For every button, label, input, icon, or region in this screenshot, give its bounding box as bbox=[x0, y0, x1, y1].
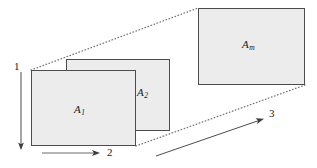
plate-a1-label-base: A bbox=[74, 103, 81, 115]
axis-1-arrow bbox=[18, 72, 24, 150]
axis-3-arrow bbox=[156, 118, 264, 156]
plate-a2-label-subscript: 2 bbox=[144, 91, 148, 100]
axis-3-label: 3 bbox=[269, 108, 275, 119]
plate-a1-label: A1 bbox=[74, 104, 85, 117]
axis-2-arrow bbox=[42, 150, 100, 156]
diagram-svg bbox=[0, 0, 317, 168]
axis-2-label: 2 bbox=[107, 147, 113, 158]
figure-canvas: A1 A2 Am 1 2 3 bbox=[0, 0, 317, 168]
plate-am-label-base: A bbox=[242, 38, 249, 50]
plate-am-label: Am bbox=[242, 39, 255, 52]
plate-a2-label-base: A bbox=[137, 86, 144, 98]
plate-a2-label: A2 bbox=[137, 87, 148, 100]
plate-am-label-subscript: m bbox=[249, 43, 254, 52]
axis-1-label: 1 bbox=[14, 61, 20, 72]
plate-a1-label-subscript: 1 bbox=[81, 108, 85, 117]
